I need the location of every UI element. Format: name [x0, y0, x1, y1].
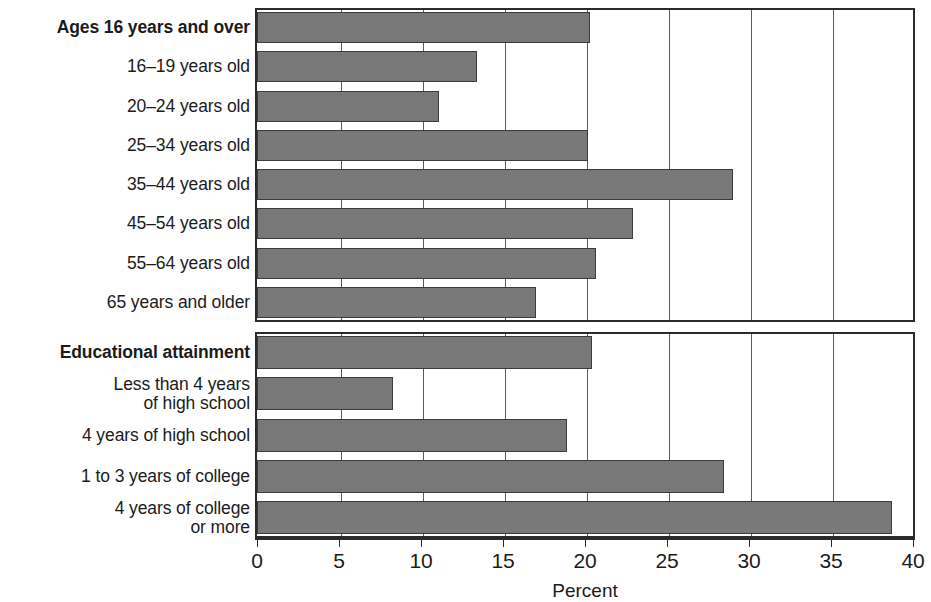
axis-tick-40	[913, 540, 914, 547]
category-label: 1 to 3 years of college	[81, 467, 250, 486]
bar	[257, 248, 596, 279]
bar	[257, 12, 590, 43]
axis-tick-35	[831, 540, 832, 547]
axis-tick-30	[749, 540, 750, 547]
category-label: 4 years of high school	[82, 426, 250, 445]
category-label: 4 years of college or more	[115, 499, 250, 537]
bar	[257, 336, 592, 369]
category-label: Ages 16 years and over	[57, 18, 250, 37]
category-label: 25–34 years old	[127, 136, 250, 155]
gridline-30	[751, 10, 752, 320]
axis-tick-25	[667, 540, 668, 547]
axis-tick-15	[503, 540, 504, 547]
bar	[257, 91, 439, 122]
category-label: 55–64 years old	[127, 254, 250, 273]
bar	[257, 460, 724, 493]
axis-tick-label: 25	[656, 549, 679, 573]
bar	[257, 501, 892, 534]
axis-tick-5	[339, 540, 340, 547]
axis-tick-label: 5	[333, 549, 344, 573]
gridline-25	[669, 10, 670, 320]
axis-tick-label: 20	[574, 549, 597, 573]
bar	[257, 51, 477, 82]
bar	[257, 377, 393, 410]
axis-tick-label: 15	[492, 549, 515, 573]
category-label: 35–44 years old	[127, 175, 250, 194]
category-label: 65 years and older	[107, 293, 250, 312]
bar	[257, 419, 567, 452]
bar	[257, 130, 588, 161]
axis-tick-label: 10	[410, 549, 433, 573]
axis-tick-label: 35	[820, 549, 843, 573]
category-label: 20–24 years old	[127, 97, 250, 116]
category-label: 45–54 years old	[127, 214, 250, 233]
axis-tick-0	[257, 540, 258, 547]
axis-tick-10	[421, 540, 422, 547]
category-label-column: Ages 16 years and over16–19 years old20–…	[0, 0, 250, 602]
bar	[257, 169, 733, 200]
x-axis-title: Percent	[552, 580, 617, 602]
bar-chart: Ages 16 years and over16–19 years old20–…	[0, 0, 931, 602]
category-label: 16–19 years old	[127, 57, 250, 76]
gridline-35	[833, 10, 834, 320]
axis-tick-label: 0	[251, 549, 262, 573]
axis-tick-label: 40	[902, 549, 925, 573]
axis-tick-label: 30	[738, 549, 761, 573]
bar	[257, 287, 536, 318]
category-label: Less than 4 years of high school	[114, 375, 250, 413]
axis-tick-20	[585, 540, 586, 547]
bar	[257, 208, 633, 239]
category-label: Educational attainment	[60, 343, 250, 362]
